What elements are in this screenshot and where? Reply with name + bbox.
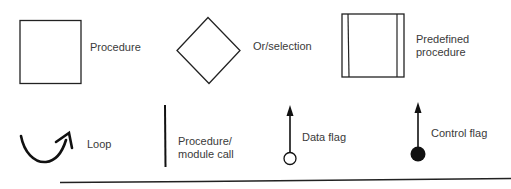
predefined-procedure-symbol <box>342 14 404 77</box>
data-flag-icon <box>284 105 296 165</box>
procedure-label: Procedure <box>90 41 141 54</box>
control-flag-label: Control flag <box>431 127 487 140</box>
loop-icon <box>21 133 72 162</box>
predefined-procedure-label-line2: procedure <box>416 46 469 59</box>
predefined-procedure-label-line1: Predefined <box>416 33 469 46</box>
data-flag-label: Data flag <box>302 131 346 144</box>
module-call-label: Procedure/ module call <box>178 135 234 161</box>
bottom-rule <box>60 179 511 183</box>
symbols-canvas <box>0 0 511 189</box>
or-selection-label: Or/selection <box>253 40 312 53</box>
loop-label: Loop <box>87 138 111 151</box>
module-call-label-line1: Procedure/ <box>178 135 234 148</box>
module-call-label-line2: module call <box>178 148 234 161</box>
module-call-line <box>165 105 166 167</box>
control-flag-icon <box>411 102 426 162</box>
predefined-procedure-label: Predefined procedure <box>416 33 469 59</box>
procedure-symbol <box>20 21 81 84</box>
or-selection-symbol <box>177 18 240 84</box>
